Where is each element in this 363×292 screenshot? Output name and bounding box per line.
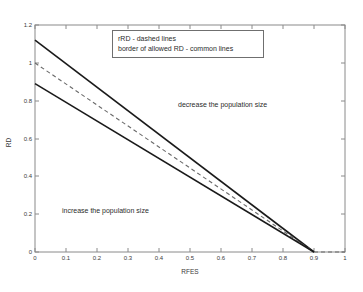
x-tick-label: 0.5 (186, 255, 194, 262)
annotation-decrease-population: decrease the population size (178, 101, 267, 108)
legend-entry-border: border of allowed RD - common lines (118, 44, 258, 54)
y-tick-label: 0.2 (20, 211, 32, 218)
x-tick-label: 0.1 (62, 255, 70, 262)
x-tick-label: 0.3 (124, 255, 132, 262)
y-tick-label: 1 (20, 60, 32, 67)
y-axis-title: RD (5, 138, 12, 147)
x-tick-label: 0.4 (155, 255, 163, 262)
y-tick-label: 0.6 (20, 136, 32, 143)
legend-entry-rrd: rRD - dashed lines (118, 34, 258, 44)
x-tick-label: 0.6 (217, 255, 225, 262)
legend-box: rRD - dashed lines border of allowed RD … (112, 30, 264, 58)
figure-canvas: 0 0.1 0.2 0.3 0.4 0.5 0.6 0.7 0.8 0.9 1 … (0, 0, 363, 292)
x-tick-label: 0.2 (93, 255, 101, 262)
x-axis-title: RFES (181, 268, 198, 275)
y-tick-label: 0.4 (20, 173, 32, 180)
y-tick-label: 1.2 (20, 22, 32, 29)
x-tick-label: 0.8 (279, 255, 287, 262)
plot-frame (35, 25, 345, 252)
x-tick-label: 1 (343, 255, 346, 262)
y-tick-label: 0 (20, 249, 32, 256)
x-tick-label: 0.7 (248, 255, 256, 262)
y-tick-label: 0.8 (20, 98, 32, 105)
x-tick-label: 0.9 (310, 255, 318, 262)
annotation-increase-population: increase the population size (62, 207, 149, 214)
x-tick-label: 0 (33, 255, 36, 262)
